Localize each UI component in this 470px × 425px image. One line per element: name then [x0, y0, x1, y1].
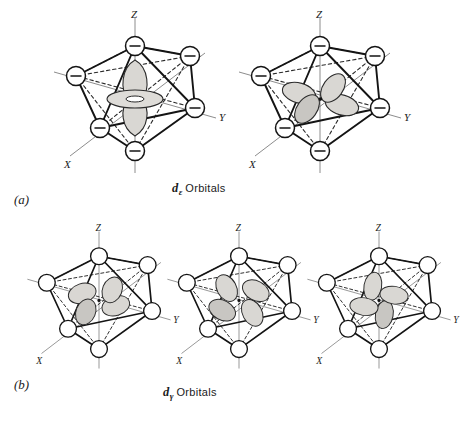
caption-symbol-d: d: [163, 385, 170, 399]
axis-label-x: X: [35, 355, 43, 366]
octahedron-diagram-dz2: Z Y X: [40, 8, 230, 183]
panel-label-b: (b): [14, 377, 29, 393]
ligand-sphere: [276, 119, 295, 138]
axis-label-z: Z: [316, 8, 323, 20]
ligand-sphere: [311, 37, 330, 56]
caption-dgamma: dγOrbitals: [163, 385, 217, 401]
ligand-sphere: [186, 99, 205, 118]
ligand-sphere: [424, 303, 441, 320]
ligand-sphere: [60, 320, 77, 337]
axis-label-y: Y: [453, 314, 460, 325]
ligand-sphere: [139, 257, 156, 274]
axis-label-z: Z: [131, 8, 138, 20]
axis-label-x: X: [175, 355, 183, 366]
caption-de: dεOrbitals: [172, 181, 226, 197]
ligand-sphere: [318, 274, 335, 291]
ligand-sphere: [371, 341, 388, 358]
ligand-sphere: [91, 119, 110, 138]
ligand-sphere: [38, 274, 55, 291]
caption-word-orbitals: Orbitals: [176, 386, 216, 398]
caption-word-orbitals: Orbitals: [185, 182, 225, 194]
axis-label-z: Z: [95, 222, 101, 233]
ligand-sphere: [340, 320, 357, 337]
ligand-sphere: [366, 47, 385, 66]
axis-label-z: Z: [235, 222, 241, 233]
orbital-dx2y2: [280, 69, 361, 128]
ligand-sphere: [181, 47, 200, 66]
orbital-figure: Z Y X: [0, 0, 470, 425]
axis-label-x: X: [63, 158, 72, 170]
ligand-sphere: [200, 320, 217, 337]
panel-label-a: (a): [14, 192, 29, 208]
axis-label-z: Z: [375, 222, 381, 233]
caption-symbol-d: d: [172, 181, 179, 195]
octahedron-diagram-dx2y2: Z Y X: [225, 8, 415, 183]
ligand-sphere: [371, 248, 388, 265]
ligand-sphere: [91, 248, 108, 265]
axis-label-x: X: [315, 355, 323, 366]
ligand-sphere: [279, 257, 296, 274]
axis-label-y: Y: [404, 111, 412, 123]
ligand-sphere: [126, 142, 145, 161]
ligand-sphere: [126, 37, 145, 56]
caption-subscript-epsilon: ε: [179, 187, 183, 197]
ligand-sphere: [91, 341, 108, 358]
ligand-sphere: [231, 341, 248, 358]
ligand-sphere: [67, 67, 86, 86]
ligand-sphere: [252, 67, 271, 86]
octahedron-diagram-dyz: Z Y X: [295, 220, 463, 380]
ligand-sphere: [419, 257, 436, 274]
caption-subscript-gamma: γ: [170, 391, 174, 401]
ligand-sphere: [178, 274, 195, 291]
axis-label-x: X: [248, 158, 257, 170]
ligand-sphere: [231, 248, 248, 265]
ligand-sphere: [311, 142, 330, 161]
ligand-sphere: [371, 99, 390, 118]
